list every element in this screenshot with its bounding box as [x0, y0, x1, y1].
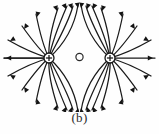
field-arrowhead — [143, 36, 149, 41]
field-arrowhead — [10, 36, 16, 41]
field-arrowhead — [53, 5, 58, 11]
point-charges-layer — [44, 53, 115, 63]
left-charge — [44, 53, 54, 63]
field-arrowhead — [148, 56, 153, 61]
neutral-point-layer — [76, 53, 83, 60]
field-arrowhead — [6, 56, 11, 61]
field-arrowhead — [130, 87, 135, 93]
field-arrowhead — [101, 5, 106, 11]
figure-caption: (b) — [0, 110, 159, 126]
field-arrowhead — [93, 3, 98, 9]
field-arrowhead — [130, 23, 135, 29]
field-arrowhead — [10, 75, 16, 80]
figure-container: (b) — [0, 0, 159, 134]
field-arrowhead — [86, 3, 91, 9]
field-arrowhead — [62, 3, 67, 9]
field-arrowhead — [24, 23, 29, 29]
field-arrowhead — [68, 3, 73, 9]
neutral-point-circle — [76, 53, 83, 60]
field-arrowhead — [143, 75, 149, 80]
electric-field-diagram — [0, 0, 159, 112]
right-charge — [105, 53, 115, 63]
field-lines-layer — [4, 5, 155, 111]
field-arrowheads-layer — [6, 2, 153, 112]
field-arrowhead — [24, 87, 29, 93]
